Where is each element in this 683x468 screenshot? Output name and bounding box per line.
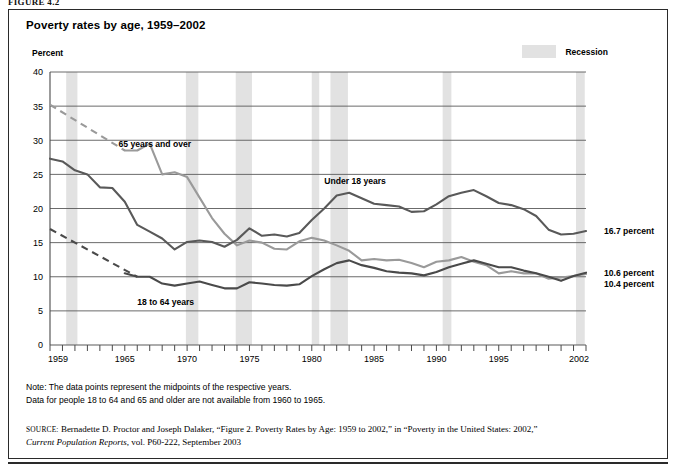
bottom-rule	[8, 462, 668, 464]
series-annotation: 65 years and over	[119, 139, 192, 149]
source-line-2: , vol. P60-222, September 2003	[127, 437, 241, 447]
x-tick-label: 1995	[489, 354, 509, 364]
x-tick-label: 1980	[302, 354, 322, 364]
y-tick-label: 0	[38, 340, 43, 350]
series-end-label: 10.6 percent	[604, 268, 654, 278]
y-tick-label: 30	[33, 136, 43, 146]
y-tick-label: 5	[38, 306, 43, 316]
y-tick-label: 20	[33, 204, 43, 214]
series-dashed-segment	[50, 105, 125, 151]
x-tick-label: 2002	[569, 354, 589, 364]
series-dashed-segment	[50, 229, 137, 277]
y-tick-label: 25	[33, 170, 43, 180]
x-tick-label: 1959	[48, 354, 68, 364]
series-end-label: 16.7 percent	[604, 226, 654, 236]
series-annotation: 18 to 64 years	[137, 297, 194, 307]
y-tick-label: 15	[33, 238, 43, 248]
y-tick-label: 10	[33, 272, 43, 282]
series-end-label: 10.4 percent	[604, 279, 654, 289]
source-citation: source: Bernadette D. Proctor and Joseph…	[26, 423, 636, 449]
chart-notes: Note: The data points represent the midp…	[26, 381, 325, 406]
y-tick-label: 40	[33, 67, 43, 77]
y-tick-label: 35	[33, 102, 43, 112]
source-prefix: source:	[26, 425, 59, 434]
x-tick-label: 1990	[426, 354, 446, 364]
series-annotation: Under 18 years	[324, 176, 386, 186]
x-tick-label: 1970	[177, 354, 197, 364]
figure-page: FIGURE 4.2 Poverty rates by age, 1959–20…	[0, 0, 683, 468]
source-line-1: Bernadette D. Proctor and Joseph Dalaker…	[59, 424, 538, 434]
note-line-1: Note: The data points represent the midp…	[26, 381, 325, 394]
note-line-2: Data for people 18 to 64 and 65 and olde…	[26, 394, 325, 407]
x-tick-label: 1965	[115, 354, 135, 364]
x-tick-label: 1985	[364, 354, 384, 364]
x-tick-label: 1975	[239, 354, 259, 364]
source-italic: Current Population Reports	[26, 437, 127, 447]
